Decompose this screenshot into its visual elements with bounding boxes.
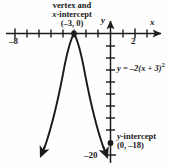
x-axis: [6, 29, 161, 39]
x-tick-label-neg8: –8: [9, 36, 18, 46]
vertex-annotation-coords: (–3, 0): [36, 19, 108, 28]
graph-figure: vertex and x-intercept (–3, 0) y = –2(x …: [0, 0, 171, 168]
parabola-curve: [41, 34, 107, 157]
x-tick-label-2: 2: [131, 36, 136, 46]
y-axis-label: y: [101, 15, 105, 25]
x-axis-label: x: [150, 17, 155, 27]
y-intercept-annotation: y-intercept (0, –18): [117, 132, 156, 150]
y-intercept-point: [108, 140, 114, 146]
y-intercept-annotation-coords: (0, –18): [117, 141, 156, 150]
vertex-point: [71, 31, 77, 37]
equation-exponent: 2: [162, 62, 165, 68]
equation-body: y = –2(x + 3): [117, 63, 162, 73]
y-tick-label-neg20: –20: [84, 150, 98, 160]
vertex-annotation: vertex and x-intercept (–3, 0): [36, 1, 108, 28]
equation-annotation: y = –2(x + 3)2: [117, 62, 165, 73]
